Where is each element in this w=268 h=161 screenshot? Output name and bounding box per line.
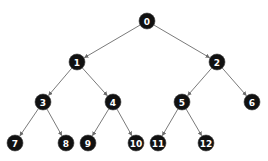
- tree-node-8: 8: [58, 135, 74, 151]
- tree-node-1: 1: [69, 54, 85, 70]
- node-label: 10: [130, 139, 143, 149]
- node-label: 6: [249, 98, 255, 108]
- nodes-layer: 0123456789101112: [7, 13, 260, 151]
- edge-5-12: [186, 109, 202, 136]
- node-label: 7: [12, 139, 18, 149]
- tree-node-12: 12: [198, 135, 214, 151]
- tree-node-5: 5: [174, 94, 190, 110]
- tree-node-9: 9: [80, 135, 96, 151]
- edge-4-9: [92, 109, 108, 136]
- edge-1-4: [82, 68, 107, 96]
- tree-node-0: 0: [139, 13, 155, 29]
- edge-2-6: [222, 68, 246, 96]
- node-label: 9: [85, 139, 91, 149]
- node-label: 11: [152, 139, 165, 149]
- edge-0-1: [84, 25, 140, 58]
- tree-node-2: 2: [209, 54, 225, 70]
- edge-2-5: [188, 68, 212, 96]
- node-label: 2: [214, 58, 220, 68]
- tree-diagram: 0123456789101112: [0, 0, 268, 161]
- tree-node-4: 4: [105, 94, 121, 110]
- tree-node-6: 6: [244, 94, 260, 110]
- edge-3-8: [47, 109, 62, 136]
- tree-node-10: 10: [128, 135, 144, 151]
- node-label: 8: [63, 139, 69, 149]
- node-label: 5: [179, 98, 185, 108]
- edges-layer: [20, 25, 247, 136]
- edge-0-2: [154, 25, 210, 58]
- edge-5-11: [162, 109, 178, 136]
- edge-4-10: [117, 109, 132, 136]
- node-label: 0: [144, 17, 150, 27]
- node-label: 12: [200, 139, 213, 149]
- edge-3-7: [20, 109, 39, 136]
- node-label: 3: [40, 98, 46, 108]
- node-label: 1: [74, 58, 80, 68]
- tree-node-11: 11: [150, 135, 166, 151]
- node-label: 4: [110, 98, 116, 108]
- edge-1-3: [49, 68, 72, 95]
- tree-node-7: 7: [7, 135, 23, 151]
- tree-node-3: 3: [35, 94, 51, 110]
